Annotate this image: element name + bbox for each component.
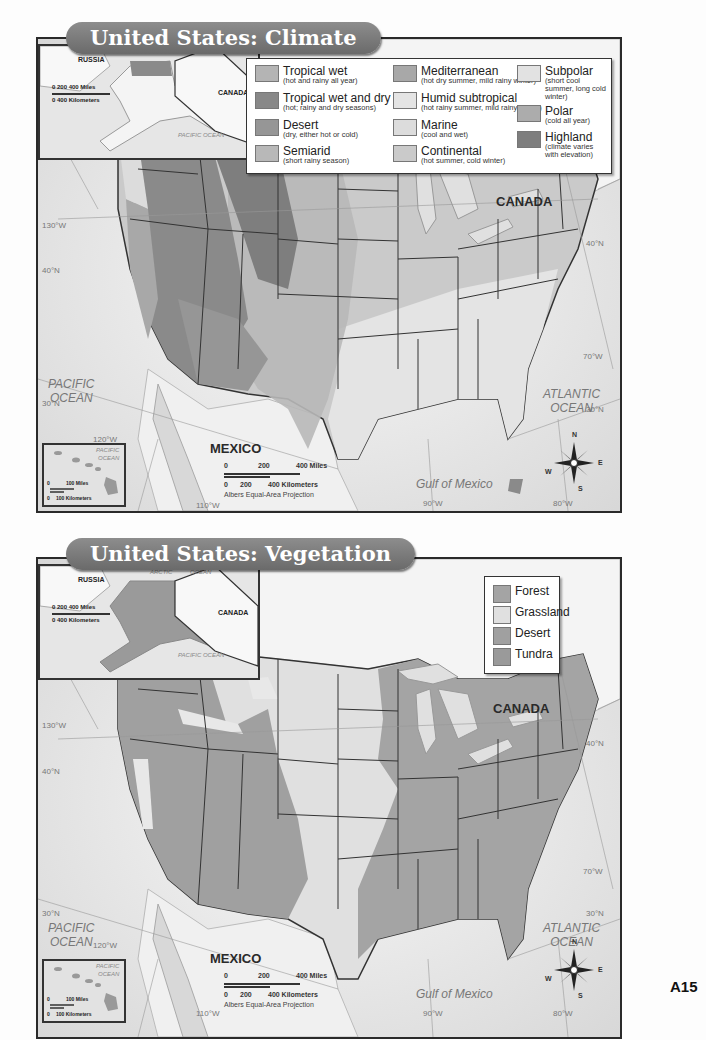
legend-item: Semiarid(short rainy season) [255, 145, 349, 165]
scale-km-400: 400 Kilometers [268, 481, 318, 488]
legend-desc: (short rainy season) [283, 157, 349, 165]
scale-miles-0: 0 [224, 972, 228, 979]
hawaii-scale-zero-k: 0 [47, 495, 50, 501]
grid-30n-west: 30°N [42, 909, 60, 918]
compass-rose-icon [550, 434, 598, 492]
grid-120w: 120°W [93, 941, 117, 950]
scale-miles-400: 400 Miles [296, 972, 327, 979]
scale-km-200: 200 [240, 481, 252, 488]
scale-km-200: 200 [240, 991, 252, 998]
gulf-label: Gulf of Mexico [416, 477, 493, 491]
legend-item: Desert [493, 627, 550, 645]
legend-label: Desert [515, 627, 550, 639]
grid-70w: 70°W [583, 352, 603, 361]
legend-swatch [255, 92, 279, 109]
legend-swatch [517, 65, 541, 82]
legend-swatch [393, 145, 417, 162]
legend-desc: (cool and wet) [421, 131, 468, 139]
canada-inset-label: CANADA [218, 609, 248, 616]
legend-swatch [255, 145, 279, 162]
hawaii-pacific-label: PACIFIC [96, 447, 119, 453]
legend-item: Polar(cold all year) [517, 105, 607, 125]
inset-pacific-label: PACIFIC OCEAN [178, 652, 224, 658]
grid-40n-west: 40°N [42, 266, 60, 275]
legend-swatch [493, 585, 511, 603]
legend-item: Subpolar(short cool summer, long cold wi… [517, 65, 607, 101]
legend-swatch [255, 65, 279, 82]
legend-desc: (climate varies with elevation) [545, 143, 607, 159]
gulf-label: Gulf of Mexico [416, 987, 493, 1001]
hawaii-scale-zero-m: 0 [47, 996, 50, 1002]
hawaii-scale-zero-k: 0 [47, 1011, 50, 1017]
hawaii-pacific-label: PACIFIC [96, 963, 119, 969]
projection-label: Albers Equal-Area Projection [224, 491, 314, 498]
scale-miles-0: 0 [224, 462, 228, 469]
grid-30n-east: 30°N [586, 405, 604, 414]
grid-110w: 110°W [196, 501, 220, 510]
legend-swatch [517, 131, 541, 148]
legend-label: Tundra [515, 648, 553, 660]
grid-120w: 120°W [93, 435, 117, 444]
vegetation-map: RUSSIA ARCTIC OCEAN CANADA 0 200 400 Mil… [36, 557, 622, 1039]
legend-swatch [493, 627, 511, 645]
grid-130w: 130°W [42, 721, 66, 730]
mexico-label: MEXICO [210, 441, 261, 456]
legend-item: Tundra [493, 648, 553, 666]
legend-item: Mediterranean(hot dry summer, mild rainy… [393, 65, 536, 85]
inset-scale-miles: 0 200 400 Miles [52, 604, 95, 610]
grid-130w: 130°W [42, 221, 66, 230]
pacific-ocean-label: PACIFIC OCEAN [48, 921, 94, 949]
scale-bar [224, 981, 324, 991]
russia-label: RUSSIA [78, 576, 104, 583]
grid-40n-east: 40°N [586, 739, 604, 748]
climate-map: RUSSIA ARCTIC OCEAN CANADA 0 200 400 Mil… [36, 37, 622, 513]
grid-40n-east: 40°N [586, 239, 604, 248]
compass-rose-icon [550, 941, 598, 999]
scale-miles-200: 200 [258, 462, 270, 469]
legend-swatch [493, 606, 511, 624]
legend-swatch [393, 92, 417, 109]
hawaii-ocean-label: OCEAN [98, 971, 119, 977]
compass-e: E [598, 966, 603, 973]
vegetation-legend: Forest Grassland Desert Tundra [484, 576, 560, 674]
grid-80w: 80°W [553, 1009, 573, 1018]
legend-desc: (hot; rainy and dry seasons) [283, 104, 391, 112]
compass-n: N [572, 938, 577, 945]
projection-label: Albers Equal-Area Projection [224, 1001, 314, 1008]
legend-label: Grassland [515, 606, 570, 618]
legend-swatch [517, 105, 541, 122]
hawaii-scale-miles: 100 Miles [66, 996, 88, 1002]
legend-desc: (dry, either hot or cold) [283, 131, 358, 139]
compass-w: W [545, 975, 552, 982]
compass-s: S [578, 485, 583, 492]
hawaii-scale-miles: 100 Miles [66, 480, 88, 486]
climate-map-title: United States: Climate [66, 22, 381, 54]
legend-desc: (hot and rainy all year) [283, 77, 358, 85]
scale-km-400: 400 Kilometers [268, 991, 318, 998]
hawaii-scale-zero-m: 0 [47, 480, 50, 486]
grid-30n-east: 30°N [586, 909, 604, 918]
canada-inset-label: CANADA [218, 89, 248, 96]
legend-item: Grassland [493, 606, 570, 624]
legend-desc: (hot summer, cold winter) [421, 157, 505, 165]
inset-scale-km: 0 400 Kilometers [52, 617, 100, 623]
hawaii-inset: PACIFIC OCEAN 0 100 Miles 0 100 Kilomete… [42, 959, 126, 1023]
page-number: A15 [670, 978, 698, 995]
scale-km-0: 0 [224, 481, 228, 488]
alaska-inset: RUSSIA ARCTIC OCEAN CANADA 0 200 400 Mil… [38, 564, 260, 680]
legend-item: Tropical wet and dry(hot; rainy and dry … [255, 92, 391, 112]
scale-bar [224, 471, 324, 481]
legend-swatch [255, 119, 279, 136]
compass-s: S [578, 992, 583, 999]
mexico-label: MEXICO [210, 951, 261, 966]
legend-item: Marine(cool and wet) [393, 119, 468, 139]
inset-scale-km: 0 400 Kilometers [52, 97, 100, 103]
canada-label: CANADA [493, 701, 549, 716]
legend-item: Tropical wet(hot and rainy all year) [255, 65, 358, 85]
hawaii-ocean-label: OCEAN [98, 455, 119, 461]
russia-label: RUSSIA [78, 56, 104, 63]
legend-item: Continental(hot summer, cold winter) [393, 145, 505, 165]
climate-legend: Tropical wet(hot and rainy all year) Tro… [246, 58, 612, 174]
legend-swatch [393, 65, 417, 82]
legend-item: Forest [493, 585, 549, 603]
